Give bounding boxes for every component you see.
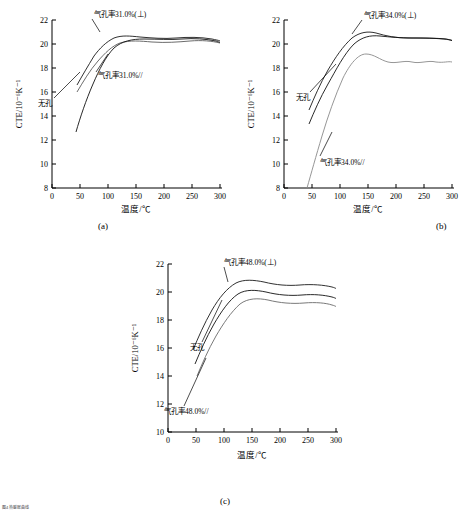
x-ticks-b [284,184,452,188]
annotation-label-perp: 气孔率48.0%(⊥) [224,257,277,267]
x-tick-label: 150 [362,192,374,201]
x-tick-label: 250 [418,192,430,201]
series-para-c [197,299,336,376]
y-tick-label: 14 [40,112,48,121]
y-tick-label: 16 [272,88,280,97]
plot-svg-a: 8 10 12 14 16 18 20 22 0 50 [8,6,230,238]
annotation-leaders-c [184,267,228,406]
x-tick-label: 0 [282,192,286,201]
x-tick-label: 150 [246,436,258,445]
annotation-label-perp: 气孔率31.0%(⊥) [94,9,147,19]
x-tick-label: 200 [158,192,170,201]
y-axis-title-b: CTE/10⁻⁶K⁻¹ [246,79,256,128]
y-tick-label: 20 [40,40,48,49]
y-tick-label: 10 [272,160,280,169]
y-tick-label: 12 [40,136,48,145]
x-tick-label: 50 [308,192,316,201]
y-tick-label: 20 [272,40,280,49]
chart-panel-b: 8 10 12 14 16 18 20 22 0 50 1 [240,6,462,238]
annotation-label-perp: 气孔率34.0%(⊥) [364,10,417,20]
y-tick-label: 10 [40,160,48,169]
series-para-b [307,54,452,188]
x-tick-label: 300 [214,192,226,201]
x-tick-labels-c: 0 50 100 150 200 250 300 [166,436,342,445]
x-tick-label: 100 [102,192,114,201]
plot-svg-c: 10 12 14 16 18 20 22 0 50 100 [124,250,346,490]
chart-area-c: 10 12 14 16 18 20 22 0 50 100 [124,250,346,482]
y-tick-label: 12 [272,136,280,145]
y-tick-label: 14 [156,372,164,381]
x-axis-title-c: 温度/℃ [237,450,266,460]
x-ticks-a [52,184,220,188]
y-tick-label: 16 [40,88,48,97]
y-tick-labels-c: 10 12 14 16 18 20 22 [156,260,164,437]
chart-area-b: 8 10 12 14 16 18 20 22 0 50 1 [240,6,462,238]
y-tick-label: 20 [156,288,164,297]
x-axis-title-a: 温度/℃ [121,204,150,214]
annotation-label-para: 气孔率48.0%// [164,406,209,416]
chart-panel-a: 8 10 12 14 16 18 20 22 0 50 [8,6,230,238]
annotation-label-nopore: 无孔 [38,99,53,108]
x-tick-label: 300 [330,436,342,445]
y-tick-label: 22 [156,260,164,269]
annotation-label-para: 气孔率31.0%// [98,70,143,80]
y-axis-title-c: CTE/10⁻⁶K⁻¹ [130,323,140,372]
x-tick-label: 150 [130,192,142,201]
figure-corner-mark: 图4 热膨胀曲线 [2,504,29,510]
x-tick-label: 200 [274,436,286,445]
y-tick-label: 16 [156,344,164,353]
series-nopore-c [195,290,336,364]
series-para-a [77,41,220,92]
x-tick-label: 250 [186,192,198,201]
y-tick-label: 8 [44,184,48,193]
chart-area-a: 8 10 12 14 16 18 20 22 0 50 [8,6,230,238]
y-tick-label: 18 [156,316,164,325]
x-axis-title-b: 温度/℃ [353,204,382,214]
panel-caption-b: (b) [436,221,447,231]
annotation-label-nopore: 无孔 [190,343,205,352]
annotations-b: 气孔率34.0%(⊥) 无孔 气孔率34.0%// [296,10,417,167]
x-tick-labels-b: 0 50 100 150 200 250 300 [282,192,458,201]
y-tick-label: 18 [40,64,48,73]
panel-caption-a: (a) [98,221,108,231]
x-tick-labels-a: 0 50 100 150 200 250 300 [50,192,226,201]
y-tick-labels-b: 8 10 12 14 16 18 20 22 [272,16,280,193]
y-tick-label: 12 [156,400,164,409]
x-ticks-c [168,428,336,432]
series-perp-b [309,32,452,110]
y-ticks-b [284,20,288,188]
y-tick-label: 10 [156,428,164,437]
annotation-label-nopore: 无孔 [296,93,311,102]
x-tick-label: 100 [334,192,346,201]
y-tick-label: 22 [40,16,48,25]
x-tick-label: 0 [50,192,54,201]
axis-frame-a [52,20,222,188]
x-tick-label: 300 [446,192,458,201]
series-nopore-a [76,39,220,132]
y-ticks-a [52,20,56,188]
y-tick-label: 18 [272,64,280,73]
y-tick-label: 22 [272,16,280,25]
chart-panel-c: 10 12 14 16 18 20 22 0 50 100 [124,250,346,482]
plot-svg-b: 8 10 12 14 16 18 20 22 0 50 1 [240,6,462,238]
annotation-label-para: 气孔率34.0%// [320,157,365,167]
annotation-leaders-b [310,20,362,156]
y-axis-title-a: CTE/10⁻⁶K⁻¹ [14,79,24,128]
x-tick-label: 50 [192,436,200,445]
y-tick-label: 8 [276,184,280,193]
x-tick-label: 0 [166,436,170,445]
x-tick-label: 250 [302,436,314,445]
panel-caption-c: (c) [220,496,230,506]
y-tick-label: 14 [272,112,280,121]
x-tick-label: 100 [218,436,230,445]
x-tick-label: 50 [76,192,84,201]
axis-frame-b [284,20,454,188]
x-tick-label: 200 [390,192,402,201]
